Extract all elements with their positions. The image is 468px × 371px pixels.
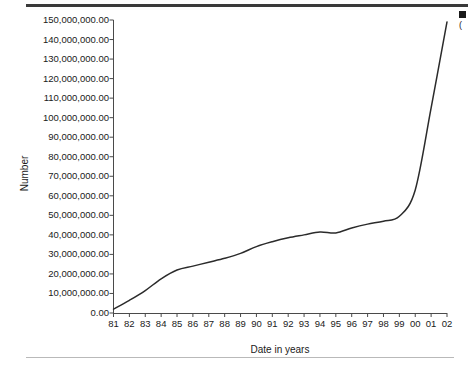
y-tick-label: 150,000,000.00	[9, 15, 109, 25]
data-series-line	[114, 22, 448, 309]
chart-legend: (	[459, 11, 468, 41]
y-tick-label: 120,000,000.00	[9, 74, 109, 84]
y-tick-label: 20,000,000.00	[9, 269, 109, 279]
y-tick-label: 40,000,000.00	[9, 230, 109, 240]
x-axis-title: Date in years	[113, 344, 447, 355]
y-axis-title: Number	[19, 134, 30, 214]
y-tick-label: 10,000,000.00	[9, 288, 109, 298]
legend-label: (	[459, 21, 468, 30]
y-tick-label: 110,000,000.00	[9, 93, 109, 103]
y-tick-label: 0.00	[9, 308, 109, 318]
y-axis-ticks	[110, 20, 114, 313]
y-axis-tick-labels: 0.0010,000,000.0020,000,000.0030,000,000…	[0, 0, 109, 371]
bottom-divider-rule	[26, 357, 454, 358]
y-tick-label: 140,000,000.00	[9, 35, 109, 45]
x-tick-label: 02	[436, 318, 458, 329]
y-tick-label: 100,000,000.00	[9, 113, 109, 123]
chart-figure: 0.0010,000,000.0020,000,000.0030,000,000…	[0, 0, 468, 371]
y-tick-label: 30,000,000.00	[9, 249, 109, 259]
legend-swatch-icon	[459, 11, 466, 18]
y-tick-label: 130,000,000.00	[9, 54, 109, 64]
